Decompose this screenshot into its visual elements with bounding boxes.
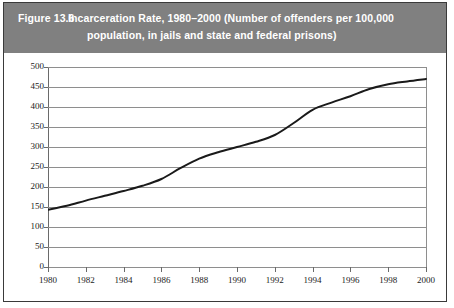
figure-number-label: Figure 13.6: [18, 12, 75, 24]
x-axis-tick-label: 1984: [104, 275, 144, 285]
y-axis-tick-label: 0: [40, 261, 45, 271]
x-axis-tick-label: 1986: [141, 275, 181, 285]
figure-title-line-1: Incarceration Rate, 1980–2000 (Number of…: [68, 12, 394, 24]
y-axis-tick-label: 200: [31, 181, 45, 191]
y-axis-tick-label: 400: [31, 101, 45, 111]
x-axis-tick-label: 1990: [217, 275, 257, 285]
x-axis-tick-label: 1988: [179, 275, 219, 285]
y-axis-labels: 050100150200250300350400450500: [4, 67, 44, 267]
x-axis-tick-label: 1982: [66, 275, 106, 285]
y-axis-tick-label: 250: [31, 161, 45, 171]
x-axis-tick-label: 2000: [406, 275, 446, 285]
x-axis-tick-label: 1996: [330, 275, 370, 285]
y-axis-tick-label: 50: [35, 241, 44, 251]
line-series-svg: [48, 67, 428, 269]
y-axis-tick-label: 100: [31, 221, 45, 231]
y-axis-tick-label: 300: [31, 141, 45, 151]
figure-container: Figure 13.6 Incarceration Rate, 1980–200…: [3, 2, 447, 302]
y-axis-tick-label: 450: [31, 81, 45, 91]
y-axis-tick-label: 500: [31, 61, 45, 71]
figure-title-line-2: population, in jails and state and feder…: [87, 29, 337, 41]
y-axis-tick-label: 350: [31, 121, 45, 131]
x-axis-tick-label: 1994: [293, 275, 333, 285]
x-axis-tick-label: 1980: [28, 275, 68, 285]
data-line-incarceration-rate: [48, 79, 426, 210]
figure-header: Figure 13.6 Incarceration Rate, 1980–200…: [4, 3, 446, 53]
plot-region: 1980198219841986198819901992199419961998…: [48, 67, 426, 267]
x-axis-tick-label: 1992: [255, 275, 295, 285]
x-axis-tick-label: 1998: [368, 275, 408, 285]
chart-area: 050100150200250300350400450500 198019821…: [4, 53, 446, 301]
y-axis-tick-label: 150: [31, 201, 45, 211]
